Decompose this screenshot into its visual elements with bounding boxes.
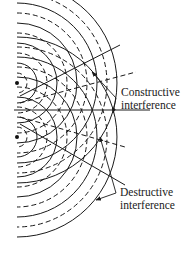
- rings-bottom-source: [17, 37, 117, 237]
- crest-ring: [17, 77, 77, 197]
- wave-rings: [17, 0, 117, 237]
- destructive-label-line1: Destructive: [120, 186, 175, 199]
- destructive-interference-label: Destructive interference: [120, 186, 175, 212]
- source-bottom-dot: [15, 135, 19, 139]
- constructive-label-line2: interference: [121, 99, 180, 112]
- crest-ring: [17, 0, 117, 183]
- constructive-interference-label: Constructive interference: [121, 86, 180, 112]
- rings-top-source: [17, 0, 117, 183]
- crest-ring: [17, 37, 117, 237]
- destructive-label-line2: interference: [120, 199, 175, 212]
- constructive-leader-2: [113, 98, 116, 113]
- interference-diagram: [0, 0, 186, 253]
- lower-constructive-line: [20, 124, 125, 185]
- source-top-dot: [15, 81, 19, 85]
- constructive-label-line1: Constructive: [121, 86, 180, 99]
